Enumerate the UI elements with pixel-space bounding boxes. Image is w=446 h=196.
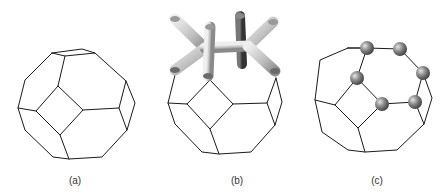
sphere [393,42,407,56]
figure-canvas: (a) (b) [0,0,446,196]
panel-b-tube-network [170,13,280,79]
sphere [408,95,422,109]
sphere [416,66,430,80]
panel-a-label: (a) [69,175,81,186]
panel-b-polyhedron [168,75,282,154]
panel-c-spheres [350,41,430,111]
panel-b-label: (b) [231,175,243,186]
sphere [360,41,374,55]
sphere [350,71,364,85]
sphere [375,97,389,111]
panel-c-label: (c) [371,175,383,186]
panel-a-polyhedron [18,49,135,159]
